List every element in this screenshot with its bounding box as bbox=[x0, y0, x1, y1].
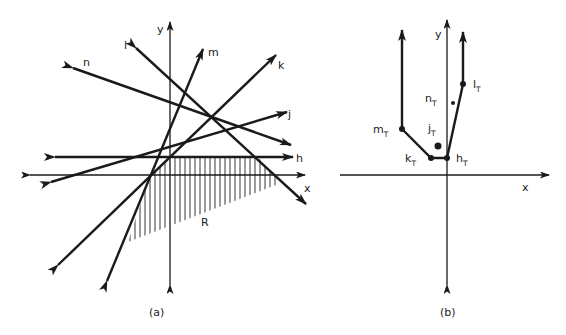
line-m-label: m bbox=[208, 46, 219, 59]
b-x-axis-label: x bbox=[522, 181, 529, 194]
point-l-t bbox=[460, 81, 466, 87]
b-y-axis-label: y bbox=[435, 28, 442, 41]
region-r-hatching bbox=[130, 150, 275, 250]
label-m-t: mT bbox=[373, 123, 389, 139]
label-j-t: jT bbox=[427, 122, 436, 138]
line-n-label: n bbox=[83, 56, 90, 69]
point-k-t bbox=[428, 155, 434, 161]
label-l-t: lT bbox=[473, 78, 481, 94]
a-y-axis-label: y bbox=[157, 23, 164, 36]
line-k-label: k bbox=[278, 59, 285, 72]
envelope-chain bbox=[402, 84, 463, 158]
line-j bbox=[51, 112, 287, 182]
line-h-label: h bbox=[296, 152, 303, 165]
figure-b: y x mT kT hT lT nT jT (b) bbox=[340, 20, 549, 319]
point-m-t bbox=[399, 126, 405, 132]
point-h-t bbox=[444, 155, 450, 161]
caption-b: (b) bbox=[440, 306, 456, 319]
label-n-t: nT bbox=[425, 92, 437, 108]
a-x-axis-label: x bbox=[304, 182, 311, 195]
line-m bbox=[107, 49, 203, 281]
label-k-t: kT bbox=[405, 152, 416, 168]
caption-a: (a) bbox=[149, 306, 164, 319]
line-k bbox=[58, 55, 276, 265]
figure-canvas: y x h j k l m n R (a) y x bbox=[0, 0, 566, 335]
line-l-label: l bbox=[124, 39, 127, 52]
line-j-label: j bbox=[287, 108, 291, 121]
region-r-label: R bbox=[201, 216, 209, 229]
point-n-t bbox=[451, 101, 455, 105]
figure-a: y x h j k l m n R (a) bbox=[30, 22, 311, 319]
line-n bbox=[73, 68, 291, 145]
label-h-t: hT bbox=[456, 152, 468, 168]
point-j-t bbox=[435, 143, 442, 150]
